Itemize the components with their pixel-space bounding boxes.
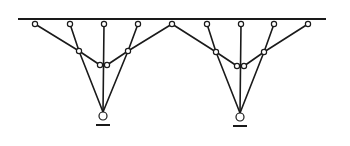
branch-member [35,24,79,51]
tree-support-diagram [0,0,350,146]
top-joint [169,21,174,26]
central-column [103,24,104,112]
branch-member [264,24,274,52]
mid-joint [76,48,81,53]
bottom-joint [97,62,102,67]
top-joint [204,21,209,26]
ground-supports [96,125,247,126]
top-joint [67,21,72,26]
top-joint [135,21,140,26]
top-joint [238,21,243,26]
central-column [240,24,241,113]
trunk-leg [79,51,103,112]
mid-joint [261,49,266,54]
top-joint [32,21,37,26]
branch-member [128,24,138,51]
mid-joint [125,48,130,53]
mid-joint [213,49,218,54]
bottom-joint [104,62,109,67]
branch-member [264,24,308,52]
branch-member [172,24,216,52]
trunk-leg [216,52,240,113]
bottom-joint [234,63,239,68]
truss-members [35,24,308,113]
top-joint [305,21,310,26]
support-joint [99,112,107,120]
top-joint [101,21,106,26]
support-joint [236,113,244,121]
branch-member [128,24,172,51]
top-joint [271,21,276,26]
bottom-joint [241,63,246,68]
